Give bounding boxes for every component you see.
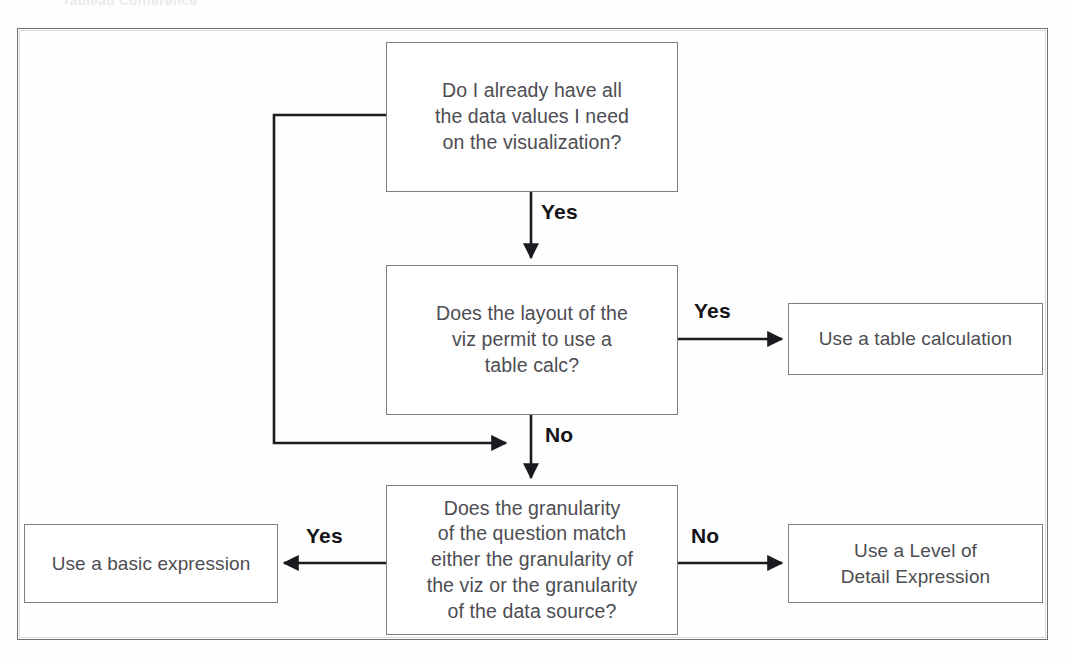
decision-node-layout-table-calc-label: Does the layout of the viz permit to use… [436, 301, 628, 378]
cropped-header-text: Tableau Conference [62, 0, 392, 7]
decision-node-data-values-label: Do I already have all the data values I … [435, 78, 629, 155]
outcome-node-basic-expression: Use a basic expression [24, 524, 278, 603]
outcome-node-table-calculation-label: Use a table calculation [819, 326, 1012, 351]
edge-label-q2-to-q3: No [545, 423, 573, 447]
edge-label-q3-to-lod-expression: No [691, 524, 719, 548]
outcome-node-level-of-detail-expression-label: Use a Level of Detail Expression [841, 538, 991, 588]
decision-node-layout-table-calc: Does the layout of the viz permit to use… [386, 265, 678, 415]
flowchart-page: Tableau Conference [0, 0, 1069, 664]
outcome-node-level-of-detail-expression: Use a Level of Detail Expression [788, 524, 1043, 603]
edge-label-q1-to-q2: Yes [541, 200, 578, 224]
edge-label-q3-to-basic-expression: Yes [306, 524, 343, 548]
edge-label-q2-to-table-calc: Yes [694, 299, 731, 323]
decision-node-granularity: Does the granularity of the question mat… [386, 485, 678, 635]
decision-node-granularity-label: Does the granularity of the question mat… [427, 496, 638, 625]
decision-node-data-values: Do I already have all the data values I … [386, 42, 678, 192]
outcome-node-basic-expression-label: Use a basic expression [52, 551, 251, 576]
outcome-node-table-calculation: Use a table calculation [788, 303, 1043, 375]
